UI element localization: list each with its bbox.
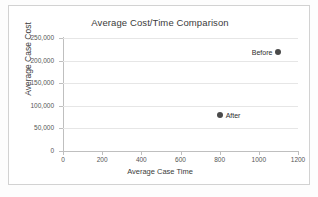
x-tick-label: 1000 <box>239 156 279 163</box>
gridline-horizontal <box>63 128 298 129</box>
data-point-marker[interactable] <box>275 49 281 55</box>
x-tick-label: 0 <box>43 156 83 163</box>
gridline-horizontal <box>63 83 298 84</box>
y-tick-label: 250,000 <box>10 34 54 41</box>
data-point-marker[interactable] <box>217 112 223 118</box>
x-tick-label: 1200 <box>278 156 318 163</box>
y-axis-line <box>63 37 64 152</box>
x-tick-mark <box>102 151 103 155</box>
y-tick-mark <box>59 83 63 84</box>
y-tick-mark <box>59 128 63 129</box>
x-tick-label: 800 <box>200 156 240 163</box>
data-point-label: Before <box>252 48 273 55</box>
y-tick-label: 200,000 <box>10 57 54 64</box>
chart-frame: Average Cost/Time Comparison Average Cas… <box>8 5 310 185</box>
y-tick-label: 100,000 <box>10 102 54 109</box>
x-tick-mark <box>220 151 221 155</box>
x-tick-mark <box>298 151 299 155</box>
x-axis-title: Average Case Time <box>9 167 311 176</box>
y-tick-mark <box>59 106 63 107</box>
y-tick-label: 50,000 <box>10 124 54 131</box>
scanned-page-background: Average Cost/Time Comparison Average Cas… <box>0 0 318 197</box>
y-tick-mark <box>59 61 63 62</box>
y-tick-label: 150,000 <box>10 79 54 86</box>
chart-title: Average Cost/Time Comparison <box>9 17 311 28</box>
x-tick-label: 200 <box>82 156 122 163</box>
gridline-horizontal <box>63 106 298 107</box>
x-tick-mark <box>181 151 182 155</box>
gridline-horizontal <box>63 61 298 62</box>
x-tick-label: 400 <box>121 156 161 163</box>
x-tick-mark <box>63 151 64 155</box>
x-tick-label: 600 <box>161 156 201 163</box>
y-tick-mark <box>59 38 63 39</box>
data-point-label: After <box>226 111 241 118</box>
y-tick-label: 0 <box>10 147 54 154</box>
x-tick-mark <box>141 151 142 155</box>
x-tick-mark <box>259 151 260 155</box>
gridline-horizontal <box>63 38 298 39</box>
